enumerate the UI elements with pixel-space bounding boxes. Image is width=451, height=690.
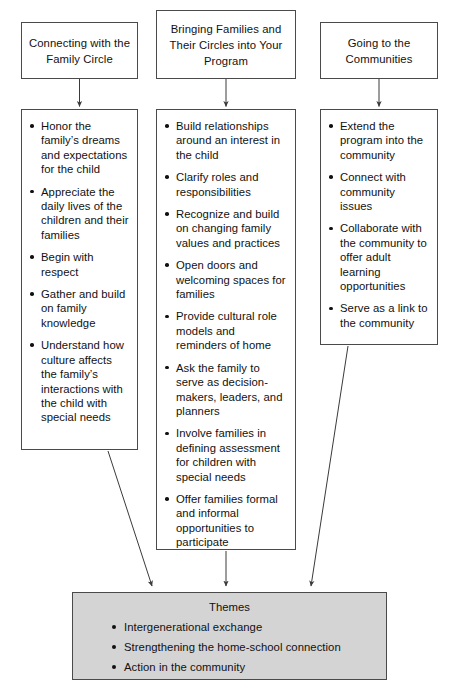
bullet-list-column-1: Honor the family’s dreams and expectatio… — [29, 119, 130, 425]
bullet-list-themes: Intergenerational exchange Strengthening… — [73, 619, 386, 675]
header-box-going-to-the-communities: Going to the Communities — [320, 22, 438, 79]
header-title: Bringing Families and Their Circles into… — [163, 21, 289, 69]
list-item: Build relationships around an interest i… — [164, 119, 288, 162]
arrow-body-1-to-themes — [108, 451, 152, 586]
body-box-connecting-with-the-family-circle: Honor the family’s dreams and expectatio… — [21, 109, 138, 450]
header-box-bringing-families-and-their-circles-into-your-program: Bringing Families and Their Circles into… — [156, 10, 296, 79]
arrow-body-3-to-themes — [311, 346, 348, 586]
list-item: Clarify roles and responsibilities — [164, 170, 288, 199]
list-item: Offer families formal and informal oppor… — [164, 492, 288, 550]
themes-box: Themes Intergenerational exchange Streng… — [72, 592, 387, 680]
diagram-canvas: Connecting with the Family Circle Honor … — [0, 0, 451, 690]
list-item: Extend the program into the community — [328, 119, 430, 162]
list-item: Connect with community issues — [328, 170, 430, 213]
header-box-connecting-with-the-family-circle: Connecting with the Family Circle — [21, 22, 138, 79]
header-title: Going to the Communities — [327, 35, 431, 67]
list-item: Gather and build on family knowledge — [29, 287, 130, 330]
list-item: Ask the family to serve as decision-make… — [164, 361, 288, 419]
body-box-bringing-families-and-their-circles-into-your-program: Build relationships around an interest i… — [156, 109, 296, 550]
list-item: Action in the community — [111, 659, 386, 675]
list-item: Provide cultural role models and reminde… — [164, 309, 288, 352]
list-item: Honor the family’s dreams and expectatio… — [29, 119, 130, 177]
list-item: Begin with respect — [29, 250, 130, 279]
list-item: Intergenerational exchange — [111, 619, 386, 635]
list-item: Serve as a link to the community — [328, 301, 430, 330]
bullet-list-column-3: Extend the program into the community Co… — [328, 119, 430, 330]
list-item: Strengthening the home-school connection — [111, 639, 386, 655]
list-item: Appreciate the daily lives of the childr… — [29, 185, 130, 243]
list-item: Collaborate with the community to offer … — [328, 221, 430, 293]
list-item: Open doors and welcoming spaces for fami… — [164, 258, 288, 301]
themes-title: Themes — [73, 600, 386, 615]
body-box-going-to-the-communities: Extend the program into the community Co… — [320, 109, 438, 345]
list-item: Understand how culture affects the famil… — [29, 338, 130, 424]
list-item: Involve families in defining assessment … — [164, 426, 288, 484]
header-title: Connecting with the Family Circle — [28, 35, 131, 67]
bullet-list-column-2: Build relationships around an interest i… — [164, 119, 288, 550]
list-item: Recognize and build on changing family v… — [164, 207, 288, 250]
